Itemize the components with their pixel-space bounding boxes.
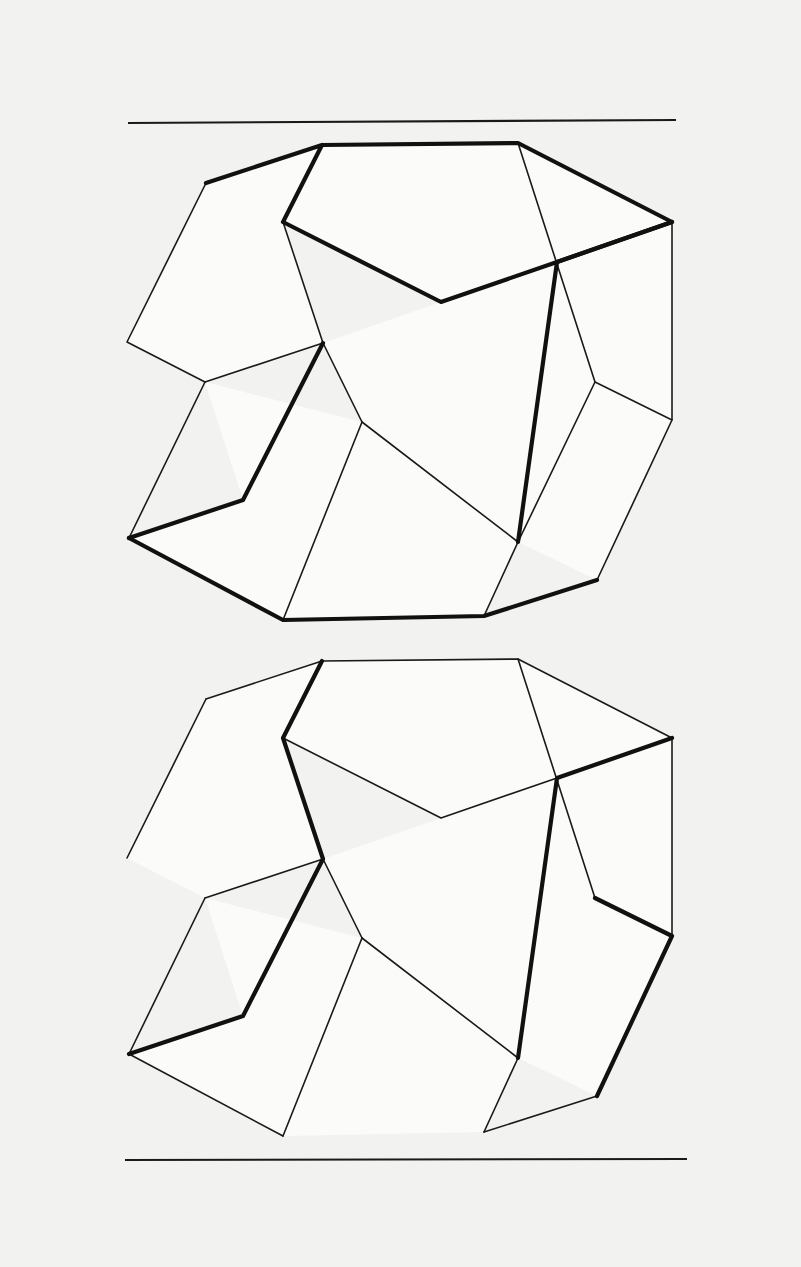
bottom-rule — [125, 1159, 687, 1160]
upper-face-left — [127, 145, 323, 382]
lower-face-left — [127, 661, 323, 898]
upper-figure — [127, 143, 672, 620]
figure-canvas — [0, 0, 801, 1267]
top-rule — [128, 120, 676, 123]
lower-edge-bottom-right-outer — [484, 1096, 597, 1132]
figure-page — [0, 0, 801, 1267]
lower-figure — [127, 659, 672, 1136]
